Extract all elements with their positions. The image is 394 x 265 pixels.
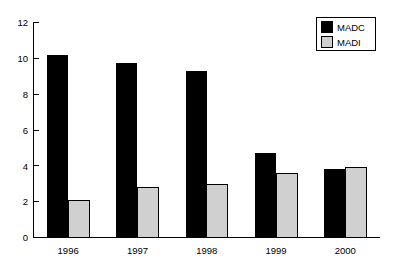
legend-label-madi: MADI [337,37,361,48]
legend-swatch-madi [321,36,332,47]
bar-chart: 12 10 8 6 4 2 0 19961997199819992000 MAD… [0,0,394,265]
legend-swatch-madc [321,21,332,32]
bar-madc-1996 [47,55,68,238]
x-tick-label-1999: 1999 [265,245,286,256]
y-tick-label: 12 [17,17,28,28]
x-tick-label-1996: 1996 [58,245,79,256]
bar-madc-1997 [116,63,137,238]
y-tick-label: 6 [23,125,28,136]
y-tick-label: 10 [17,53,28,64]
legend-label-madc: MADC [337,22,365,33]
x-tick-label-1997: 1997 [127,245,148,256]
legend: MADC MADI [317,18,376,51]
y-tick-label: 4 [23,161,28,172]
bar-madc-1999 [255,153,276,237]
bar-madc-1998 [186,71,207,238]
y-tick-label: 8 [23,89,28,100]
bar-madi-1998 [207,185,228,238]
chart-canvas: 12 10 8 6 4 2 0 19961997199819992000 MAD… [0,0,394,265]
y-tick-label: 0 [23,232,28,243]
bar-madi-1996 [68,201,89,238]
bar-madi-2000 [345,168,366,238]
x-tick-label-2000: 2000 [335,245,356,256]
bar-madi-1999 [276,173,297,238]
x-tick-label-1998: 1998 [196,245,217,256]
y-tick-label: 2 [23,196,28,207]
bar-madi-1997 [137,187,158,237]
bar-madc-2000 [324,169,345,238]
